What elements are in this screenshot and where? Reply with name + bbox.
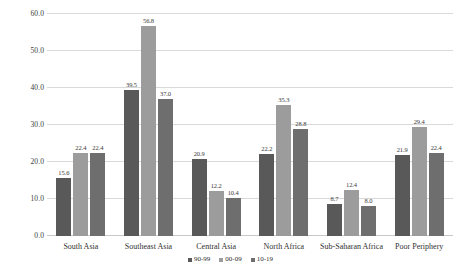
legend-swatch-icon	[251, 258, 255, 262]
bar-value-label: 37.0	[160, 91, 171, 98]
bar[interactable]	[192, 159, 207, 236]
bar-groups: 15.622.422.439.556.837.020.912.210.422.2…	[47, 14, 453, 236]
y-axis-tick-label: 50.0	[10, 47, 44, 55]
x-axis-category-label: Poor Periphery	[385, 240, 453, 254]
bar-slot: 22.4	[90, 14, 105, 236]
bar-value-label: 21.9	[397, 147, 408, 154]
bar-slot: 15.6	[56, 14, 71, 236]
bar-slot: 8.0	[361, 14, 376, 236]
bar-value-label: 56.8	[143, 18, 154, 25]
bar-value-label: 22.4	[431, 145, 442, 152]
y-axis-tick-label: 0.0	[10, 232, 44, 240]
bar[interactable]	[158, 99, 173, 236]
x-axis-category-label: Sub-Saharan Africa	[318, 240, 386, 254]
bar[interactable]	[327, 204, 342, 236]
bar-group-bars: 8.712.48.0	[318, 14, 386, 236]
bar-value-label: 20.9	[194, 151, 205, 158]
bar-value-label: 35.3	[278, 97, 289, 104]
bar[interactable]	[293, 129, 308, 236]
bar-group-bars: 15.622.422.4	[47, 14, 115, 236]
legend-label: 10-19	[257, 256, 273, 263]
bar-slot: 37.0	[158, 14, 173, 236]
bar[interactable]	[429, 153, 444, 236]
bar-slot: 21.9	[395, 14, 410, 236]
x-axis-category-label: South Asia	[47, 240, 115, 254]
bar[interactable]	[124, 90, 139, 236]
bar-value-label: 8.0	[365, 198, 373, 205]
bar-value-label: 39.5	[126, 82, 137, 89]
bar-value-label: 12.2	[211, 183, 222, 190]
bar-value-label: 10.4	[228, 190, 239, 197]
y-axis-tick-label: 60.0	[10, 10, 44, 18]
x-axis-category-label: Central Asia	[182, 240, 250, 254]
bar[interactable]	[73, 153, 88, 236]
chart-legend: 90-9900-0910-19	[0, 256, 461, 263]
legend-item[interactable]: 10-19	[251, 256, 273, 263]
bar-group: 21.929.422.4	[385, 14, 453, 236]
legend-item[interactable]: 90-99	[188, 256, 210, 263]
y-axis-tick-label: 20.0	[10, 158, 44, 166]
bar-group-bars: 21.929.422.4	[385, 14, 453, 236]
legend-label: 90-99	[194, 256, 210, 263]
bar[interactable]	[361, 206, 376, 236]
y-axis-tick-label: 40.0	[10, 84, 44, 92]
bar-group: 8.712.48.0	[318, 14, 386, 236]
bar-value-label: 15.6	[58, 170, 69, 177]
bar-value-label: 22.4	[75, 145, 86, 152]
y-axis-tick-label: 30.0	[10, 121, 44, 129]
bar-value-label: 28.8	[295, 121, 306, 128]
plot-area: 15.622.422.439.556.837.020.912.210.422.2…	[47, 14, 453, 236]
bar[interactable]	[259, 154, 274, 236]
bar-group: 22.235.328.8	[250, 14, 318, 236]
bar[interactable]	[276, 105, 291, 236]
bar-group-bars: 20.912.210.4	[182, 14, 250, 236]
bar-chart: 0.010.020.030.040.050.060.0 15.622.422.4…	[0, 0, 461, 278]
legend-label: 00-09	[225, 256, 241, 263]
x-axis-category-label: Southeast Asia	[115, 240, 183, 254]
y-axis-tick-label: 10.0	[10, 195, 44, 203]
bar-value-label: 22.4	[92, 145, 103, 152]
bar-slot: 56.8	[141, 14, 156, 236]
legend-swatch-icon	[188, 258, 192, 262]
bar-value-label: 22.2	[261, 146, 272, 153]
bar-group: 15.622.422.4	[47, 14, 115, 236]
bar-slot: 22.2	[259, 14, 274, 236]
bar-slot: 8.7	[327, 14, 342, 236]
bar-slot: 35.3	[276, 14, 291, 236]
bar[interactable]	[226, 198, 241, 236]
bar-slot: 12.4	[344, 14, 359, 236]
bar[interactable]	[141, 26, 156, 236]
bar-slot: 28.8	[293, 14, 308, 236]
bar[interactable]	[209, 191, 224, 236]
bar-group: 39.556.837.0	[115, 14, 183, 236]
bar-value-label: 8.7	[331, 196, 339, 203]
legend-item[interactable]: 00-09	[219, 256, 241, 263]
bar[interactable]	[412, 127, 427, 236]
bar-slot: 39.5	[124, 14, 139, 236]
bar-group-bars: 22.235.328.8	[250, 14, 318, 236]
bar[interactable]	[56, 178, 71, 236]
bar-slot: 10.4	[226, 14, 241, 236]
bar-group: 20.912.210.4	[182, 14, 250, 236]
bar[interactable]	[395, 155, 410, 236]
bar-slot: 22.4	[429, 14, 444, 236]
bar-slot: 12.2	[209, 14, 224, 236]
bar-slot: 22.4	[73, 14, 88, 236]
bar-slot: 20.9	[192, 14, 207, 236]
legend-swatch-icon	[219, 258, 223, 262]
x-axis-category-labels: South AsiaSoutheast AsiaCentral AsiaNort…	[47, 240, 453, 254]
bar-value-label: 12.4	[346, 182, 357, 189]
bar[interactable]	[90, 153, 105, 236]
bar-slot: 29.4	[412, 14, 427, 236]
x-axis-category-label: North Africa	[250, 240, 318, 254]
bar[interactable]	[344, 190, 359, 236]
bar-group-bars: 39.556.837.0	[115, 14, 183, 236]
bar-value-label: 29.4	[414, 119, 425, 126]
